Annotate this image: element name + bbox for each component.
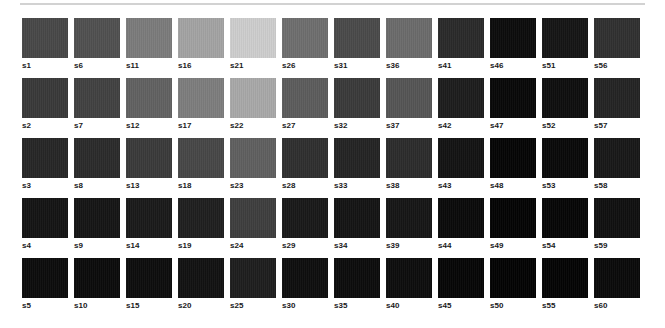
swatch-cell[interactable]: s11 [126, 18, 172, 72]
swatch-chip[interactable] [22, 258, 68, 298]
swatch-chip[interactable] [74, 78, 120, 118]
swatch-cell[interactable]: s50 [490, 258, 536, 312]
swatch-cell[interactable]: s28 [282, 138, 328, 192]
swatch-chip[interactable] [282, 138, 328, 178]
swatch-cell[interactable]: s45 [438, 258, 484, 312]
swatch-cell[interactable]: s44 [438, 198, 484, 252]
swatch-cell[interactable]: s7 [74, 78, 120, 132]
swatch-cell[interactable]: s13 [126, 138, 172, 192]
swatch-chip[interactable] [386, 78, 432, 118]
swatch-cell[interactable]: s53 [542, 138, 588, 192]
swatch-chip[interactable] [178, 138, 224, 178]
swatch-chip[interactable] [282, 258, 328, 298]
swatch-chip[interactable] [438, 18, 484, 58]
swatch-cell[interactable]: s31 [334, 18, 380, 72]
swatch-cell[interactable]: s46 [490, 18, 536, 72]
swatch-chip[interactable] [126, 258, 172, 298]
swatch-chip[interactable] [594, 198, 640, 238]
swatch-chip[interactable] [126, 198, 172, 238]
swatch-chip[interactable] [230, 18, 276, 58]
swatch-cell[interactable]: s22 [230, 78, 276, 132]
swatch-chip[interactable] [334, 258, 380, 298]
swatch-chip[interactable] [386, 258, 432, 298]
swatch-cell[interactable]: s40 [386, 258, 432, 312]
swatch-chip[interactable] [282, 18, 328, 58]
swatch-cell[interactable]: s55 [542, 258, 588, 312]
swatch-chip[interactable] [22, 18, 68, 58]
swatch-chip[interactable] [490, 258, 536, 298]
swatch-chip[interactable] [178, 198, 224, 238]
swatch-chip[interactable] [74, 258, 120, 298]
swatch-chip[interactable] [490, 18, 536, 58]
swatch-cell[interactable]: s34 [334, 198, 380, 252]
swatch-chip[interactable] [126, 18, 172, 58]
swatch-chip[interactable] [542, 78, 588, 118]
swatch-cell[interactable]: s15 [126, 258, 172, 312]
swatch-chip[interactable] [334, 198, 380, 238]
swatch-cell[interactable]: s3 [22, 138, 68, 192]
swatch-chip[interactable] [74, 18, 120, 58]
swatch-chip[interactable] [22, 198, 68, 238]
swatch-cell[interactable]: s41 [438, 18, 484, 72]
swatch-cell[interactable]: s10 [74, 258, 120, 312]
swatch-chip[interactable] [386, 198, 432, 238]
swatch-chip[interactable] [126, 138, 172, 178]
swatch-cell[interactable]: s27 [282, 78, 328, 132]
swatch-chip[interactable] [386, 138, 432, 178]
swatch-chip[interactable] [334, 78, 380, 118]
swatch-cell[interactable]: s12 [126, 78, 172, 132]
swatch-cell[interactable]: s58 [594, 138, 640, 192]
swatch-chip[interactable] [74, 198, 120, 238]
swatch-cell[interactable]: s54 [542, 198, 588, 252]
swatch-cell[interactable]: s20 [178, 258, 224, 312]
swatch-cell[interactable]: s21 [230, 18, 276, 72]
swatch-cell[interactable]: s49 [490, 198, 536, 252]
swatch-chip[interactable] [230, 258, 276, 298]
swatch-cell[interactable]: s19 [178, 198, 224, 252]
swatch-cell[interactable]: s32 [334, 78, 380, 132]
swatch-chip[interactable] [438, 78, 484, 118]
swatch-chip[interactable] [386, 18, 432, 58]
swatch-cell[interactable]: s36 [386, 18, 432, 72]
swatch-cell[interactable]: s9 [74, 198, 120, 252]
swatch-cell[interactable]: s23 [230, 138, 276, 192]
swatch-chip[interactable] [74, 138, 120, 178]
swatch-cell[interactable]: s33 [334, 138, 380, 192]
swatch-chip[interactable] [22, 138, 68, 178]
swatch-chip[interactable] [334, 18, 380, 58]
swatch-chip[interactable] [438, 198, 484, 238]
swatch-cell[interactable]: s4 [22, 198, 68, 252]
swatch-cell[interactable]: s5 [22, 258, 68, 312]
swatch-chip[interactable] [542, 258, 588, 298]
swatch-cell[interactable]: s57 [594, 78, 640, 132]
swatch-cell[interactable]: s30 [282, 258, 328, 312]
swatch-cell[interactable]: s56 [594, 18, 640, 72]
swatch-chip[interactable] [282, 198, 328, 238]
swatch-cell[interactable]: s47 [490, 78, 536, 132]
swatch-chip[interactable] [542, 138, 588, 178]
swatch-cell[interactable]: s25 [230, 258, 276, 312]
swatch-cell[interactable]: s39 [386, 198, 432, 252]
swatch-cell[interactable]: s38 [386, 138, 432, 192]
swatch-chip[interactable] [490, 198, 536, 238]
swatch-chip[interactable] [542, 18, 588, 58]
swatch-chip[interactable] [22, 78, 68, 118]
swatch-cell[interactable]: s16 [178, 18, 224, 72]
swatch-chip[interactable] [594, 258, 640, 298]
swatch-cell[interactable]: s60 [594, 258, 640, 312]
swatch-chip[interactable] [230, 198, 276, 238]
swatch-cell[interactable]: s35 [334, 258, 380, 312]
swatch-chip[interactable] [178, 78, 224, 118]
swatch-chip[interactable] [594, 138, 640, 178]
swatch-cell[interactable]: s24 [230, 198, 276, 252]
swatch-cell[interactable]: s42 [438, 78, 484, 132]
swatch-chip[interactable] [126, 78, 172, 118]
swatch-chip[interactable] [438, 258, 484, 298]
swatch-chip[interactable] [438, 138, 484, 178]
swatch-cell[interactable]: s8 [74, 138, 120, 192]
swatch-chip[interactable] [490, 138, 536, 178]
swatch-chip[interactable] [230, 78, 276, 118]
swatch-cell[interactable]: s18 [178, 138, 224, 192]
swatch-cell[interactable]: s29 [282, 198, 328, 252]
swatch-cell[interactable]: s52 [542, 78, 588, 132]
